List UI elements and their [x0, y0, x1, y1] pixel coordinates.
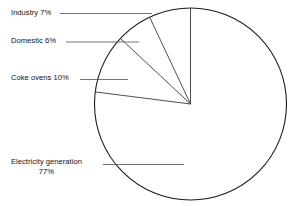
slice-label-coke-ovens: Coke ovens 10% [11, 73, 69, 83]
slice-label-electricity: Electricity generation 77% [11, 157, 82, 176]
slice-label-industry: Industry 7% [11, 8, 51, 18]
slice-label-domestic: Domestic 6% [11, 36, 56, 46]
slice-label-electricity-value: 77% [11, 167, 82, 177]
slice-label-electricity-name: Electricity generation [11, 157, 82, 166]
pie-chart-figure: Industry 7% Domestic 6% Coke ovens 10% E… [0, 0, 293, 206]
